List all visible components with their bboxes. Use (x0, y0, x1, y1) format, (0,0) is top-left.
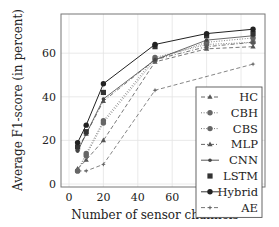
y-axis-ticks: 0204060 (42, 47, 56, 191)
y-tick-label: 20 (42, 134, 56, 147)
y-tick-label: 40 (42, 91, 56, 104)
legend: HCCBHCBSMLPCNNLSTMHybridAE (196, 87, 262, 217)
line-chart: 020406080100 0204060 Number of sensor ch… (0, 0, 279, 227)
legend-label: AE (240, 201, 258, 215)
legend-label: MLP (231, 137, 258, 151)
legend-label: CNN (229, 153, 258, 167)
x-tick-label: 20 (96, 191, 110, 204)
legend-label: LSTM (223, 169, 258, 183)
chart: 020406080100 0204060 Number of sensor ch… (0, 0, 279, 227)
y-axis-label: Average F1-score (in percent) (11, 9, 25, 192)
x-tick-label: 60 (165, 191, 179, 204)
x-tick-label: 40 (131, 191, 145, 204)
legend-label: HC (239, 90, 258, 104)
legend-label: CBH (231, 106, 258, 120)
legend-label: CBS (233, 122, 258, 136)
x-tick-label: 0 (66, 191, 73, 204)
y-tick-label: 60 (42, 47, 56, 60)
legend-label: Hybrid (218, 185, 259, 199)
y-tick-label: 0 (49, 178, 56, 191)
